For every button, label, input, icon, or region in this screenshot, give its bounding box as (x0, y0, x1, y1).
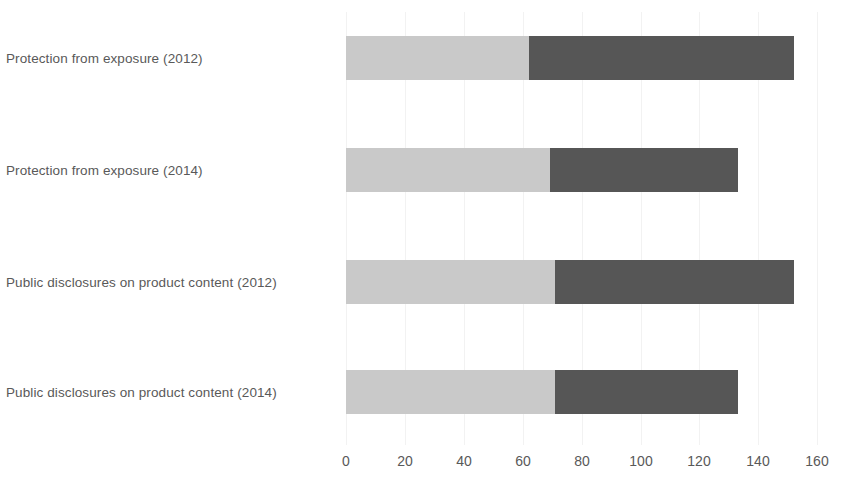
x-tick-label: 20 (397, 454, 413, 468)
plot-area (346, 0, 818, 445)
bar-segment-dark (529, 36, 795, 80)
x-tick-label: 100 (629, 454, 652, 468)
category-axis-labels: Protection from exposure (2012) Protecti… (0, 0, 335, 445)
stacked-bar-chart: Protection from exposure (2012) Protecti… (0, 0, 841, 481)
bar-segment-light (346, 260, 555, 304)
category-label: Protection from exposure (2014) (6, 164, 327, 178)
x-axis: 0 20 40 60 80 100 120 140 160 (346, 445, 818, 481)
x-tick-label: 140 (746, 454, 769, 468)
bar-segment-dark (555, 260, 794, 304)
x-tick-label: 80 (574, 454, 590, 468)
x-tick-label: 40 (456, 454, 472, 468)
x-tick-label: 160 (805, 454, 828, 468)
category-label: Public disclosures on product content (2… (6, 386, 327, 400)
category-label: Public disclosures on product content (2… (6, 276, 327, 290)
bar-segment-light (346, 36, 529, 80)
x-tick-label: 120 (687, 454, 710, 468)
category-label: Protection from exposure (2012) (6, 52, 327, 66)
x-tick-label: 60 (515, 454, 531, 468)
bar-segment-light (346, 148, 550, 192)
bar-segment-light (346, 370, 555, 414)
bars-layer (346, 0, 818, 445)
x-tick-label: 0 (342, 454, 350, 468)
bar-segment-dark (550, 148, 739, 192)
bar-segment-dark (555, 370, 738, 414)
